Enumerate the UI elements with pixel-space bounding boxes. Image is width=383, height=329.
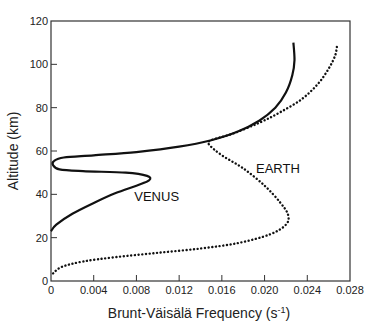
y-tick-label: 40 [36, 188, 48, 200]
x-tick-label: 0.012 [165, 284, 193, 296]
plot-frame [51, 21, 350, 281]
chart: 00.0040.0080.0120.0160.0200.0240.028 020… [0, 0, 383, 329]
x-tick-label: 0.008 [123, 284, 151, 296]
x-tick-label: 0.004 [80, 284, 108, 296]
x-tick-label: 0.020 [251, 284, 279, 296]
x-tick-label: 0.028 [336, 284, 364, 296]
y-tick-label: 80 [36, 102, 48, 114]
x-tick-label: 0 [48, 284, 54, 296]
x-axis-label: Brunt-Väisälä Frequency (s-1) [108, 305, 290, 321]
series-line-earth [53, 45, 337, 274]
y-axis-ticks: 020406080100120 [30, 15, 57, 287]
series-label-earth: EARTH [256, 161, 300, 176]
y-tick-label: 120 [30, 15, 48, 27]
series-label-venus: VENUS [134, 189, 179, 204]
x-tick-label: 0.016 [208, 284, 236, 296]
y-axis-label: Altitude (km) [5, 112, 21, 191]
x-axis-label-superscript: -1 [277, 305, 285, 315]
x-tick-label: 0.024 [294, 284, 322, 296]
x-axis-ticks: 00.0040.0080.0120.0160.0200.0240.028 [48, 275, 364, 296]
y-tick-label: 20 [36, 232, 48, 244]
y-tick-label: 100 [30, 58, 48, 70]
series-lines [51, 43, 337, 274]
y-tick-label: 0 [42, 275, 48, 287]
y-tick-label: 60 [36, 145, 48, 157]
